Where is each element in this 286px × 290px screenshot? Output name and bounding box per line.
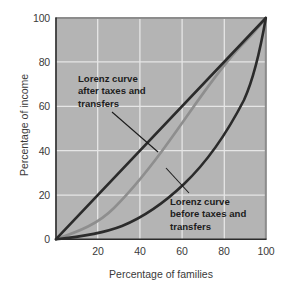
- y-tick-label-0: 0: [22, 233, 50, 245]
- annotation-before-line-3: transfers: [170, 221, 246, 233]
- x-tick-label-100: 100: [251, 245, 281, 257]
- annotation-lorenz-after-taxes: Lorenz curve after taxes and transfers: [78, 73, 146, 110]
- annotation-before-line-2: before taxes and: [170, 208, 246, 220]
- y-tick-label-100: 100: [22, 12, 50, 24]
- x-tick-label-40: 40: [125, 245, 155, 257]
- annotation-after-line-1: Lorenz curve: [78, 73, 146, 85]
- annotation-before-line-1: Lorenz curve: [170, 196, 246, 208]
- x-axis-label: Percentage of families: [55, 268, 267, 280]
- lorenz-curve-chart: 100 80 60 40 20 0 20 40 60 80 100 Percen…: [0, 0, 286, 290]
- x-tick-label-20: 20: [83, 245, 113, 257]
- annotation-after-line-3: transfers: [78, 98, 146, 110]
- annotation-lorenz-before-taxes: Lorenz curve before taxes and transfers: [170, 196, 246, 233]
- x-tick-label-80: 80: [209, 245, 239, 257]
- x-tick-label-60: 60: [167, 245, 197, 257]
- annotation-after-line-2: after taxes and: [78, 85, 146, 97]
- y-axis-label: Percentage of income: [18, 50, 30, 200]
